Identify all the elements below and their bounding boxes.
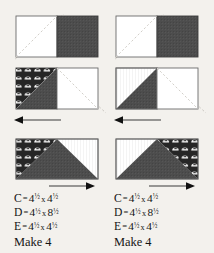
legend-row-e: E=4½x4½ [114,220,159,234]
right-step-three-diagram [114,137,210,181]
diagram-page: C=4½x4½ D=4½x8½ E=4½x4½ Make 4 [0,0,214,253]
legend-equals: = [122,193,129,203]
right-step-two-arrow [113,114,165,126]
legend-height-fraction: ½ [153,209,158,216]
legend-equals: = [22,207,29,217]
rectangle-unit [16,68,98,109]
dark-square-patch [157,16,198,57]
arrow-head-left [114,116,123,124]
legend-row-c: C=4½x4½ [114,192,159,206]
legend-row-d: D=4½x8½ [114,206,159,220]
make-count-label: Make 4 [114,236,159,249]
legend-row-c: C=4½x4½ [14,192,59,206]
legend-height-fraction: ½ [152,223,157,230]
right-step-three-arrow [147,180,197,192]
left-legend-block: C=4½x4½ D=4½x8½ E=4½x4½ Make 4 [14,192,59,249]
legend-width-fraction: ½ [35,194,40,201]
legend-label: C [114,192,122,205]
legend-times: x [140,209,147,218]
legend-equals: = [22,193,29,203]
left-step-three-diagram [14,137,106,181]
legend-height-fraction: ½ [52,223,57,230]
dark-square-patch [57,16,98,57]
make-count-label: Make 4 [14,236,59,249]
legend-times: x [40,209,47,218]
left-step-two-arrow [13,114,65,126]
left-step-one-diagram [14,14,106,62]
rectangle-unit [16,16,98,57]
legend-height-fraction: ½ [53,209,58,216]
arrow-head-right [86,182,95,190]
legend-row-d: D=4½x8½ [14,206,59,220]
legend-width-fraction: ½ [135,194,140,201]
rectangle-unit [116,16,198,57]
legend-times: x [40,195,47,204]
legend-equals: = [21,221,28,231]
legend-times: x [140,195,147,204]
legend-times: x [139,223,146,232]
legend-height-fraction: ½ [53,194,58,201]
legend-row-e: E=4½x4½ [14,220,59,234]
right-unit-column: C=4½x4½ D=4½x8½ E=4½x4½ Make 4 [107,0,214,253]
legend-equals: = [122,207,129,217]
legend-times: x [39,223,46,232]
arrow-head-right [186,182,195,190]
legend-equals: = [121,221,128,231]
left-step-three-arrow [47,180,97,192]
right-legend-block: C=4½x4½ D=4½x8½ E=4½x4½ Make 4 [114,192,159,249]
legend-label: C [14,192,22,205]
left-step-two-diagram [14,66,109,114]
legend-height-fraction: ½ [153,194,158,201]
right-step-one-diagram [114,14,210,62]
rectangle-unit [116,68,198,109]
left-unit-column: C=4½x4½ D=4½x8½ E=4½x4½ Make 4 [0,0,107,253]
arrow-head-left [14,116,23,124]
right-step-two-diagram [114,66,213,114]
